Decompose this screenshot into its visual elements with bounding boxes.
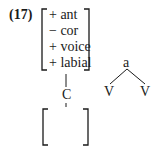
left-bracket-icon — [42, 9, 47, 70]
root-node-c: C — [62, 87, 71, 103]
tree-leaf-right: V — [140, 84, 150, 100]
tree-top-node: a — [123, 55, 129, 71]
diagram-lines — [0, 0, 158, 152]
empty-left-bracket-icon — [43, 109, 48, 145]
tree-leaf-left: V — [104, 84, 114, 100]
empty-right-bracket-icon — [83, 109, 88, 145]
right-bracket-icon — [84, 9, 89, 70]
